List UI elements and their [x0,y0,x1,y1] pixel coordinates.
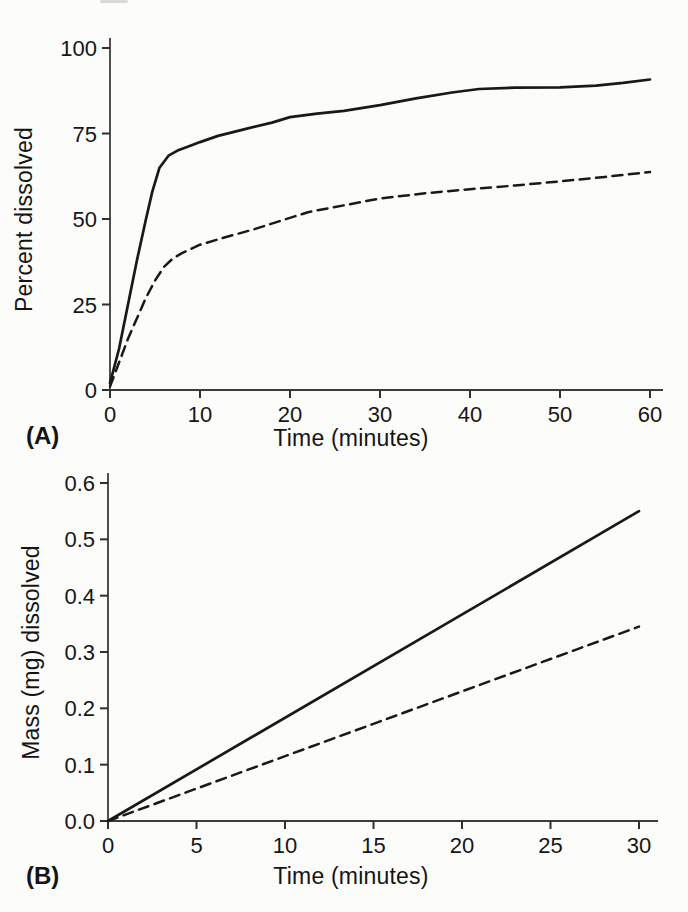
y-tick-label: 0 [85,378,97,403]
y-tick-label: 0.0 [64,809,95,834]
x-tick-label: 15 [361,833,385,858]
y-tick-label: 0.6 [64,471,95,496]
y-tick-label: 0.3 [64,640,95,665]
dashed-line [108,627,639,821]
y-tick-label: 75 [73,122,97,147]
dissolution-figure: 01020304050600255075100 0510152025300.00… [0,0,688,912]
y-tick-label: 0.2 [64,696,95,721]
x-tick-label: 5 [190,833,202,858]
x-tick-label: 10 [273,833,297,858]
figure-page: 01020304050600255075100 0510152025300.00… [0,0,688,912]
chart-b-y-axis-title: Mass (mg) dissolved [18,533,45,773]
x-tick-label: 50 [548,402,572,427]
panel-label-b: (B) [26,862,59,890]
x-tick-label: 25 [538,833,562,858]
x-tick-label: 60 [638,402,662,427]
solid-curve [110,80,650,384]
x-tick-label: 30 [627,833,651,858]
x-tick-label: 20 [278,402,302,427]
x-tick-label: 0 [102,833,114,858]
y-tick-label: 25 [73,293,97,318]
y-tick-label: 0.1 [64,753,95,778]
x-tick-label: 0 [104,402,116,427]
y-tick-label: 0.4 [64,584,95,609]
chart-a-x-axis-title: Time (minutes) [241,425,461,452]
dashed-curve [110,172,650,387]
chart-a-y-axis-title: Percent dissolved [11,105,38,335]
y-tick-label: 0.5 [64,527,95,552]
x-tick-label: 10 [188,402,212,427]
chart-a-percent-dissolved: 01020304050600255075100 [60,36,663,427]
solid-line [108,511,639,821]
x-tick-label: 40 [458,402,482,427]
chart-b-x-axis-title: Time (minutes) [241,863,461,890]
y-tick-label: 100 [60,36,97,61]
panel-label-a: (A) [26,422,59,450]
chart-b-mass-dissolved: 0510152025300.00.10.20.30.40.50.6 [64,471,658,858]
x-tick-label: 20 [450,833,474,858]
y-tick-label: 50 [73,207,97,232]
x-tick-label: 30 [368,402,392,427]
